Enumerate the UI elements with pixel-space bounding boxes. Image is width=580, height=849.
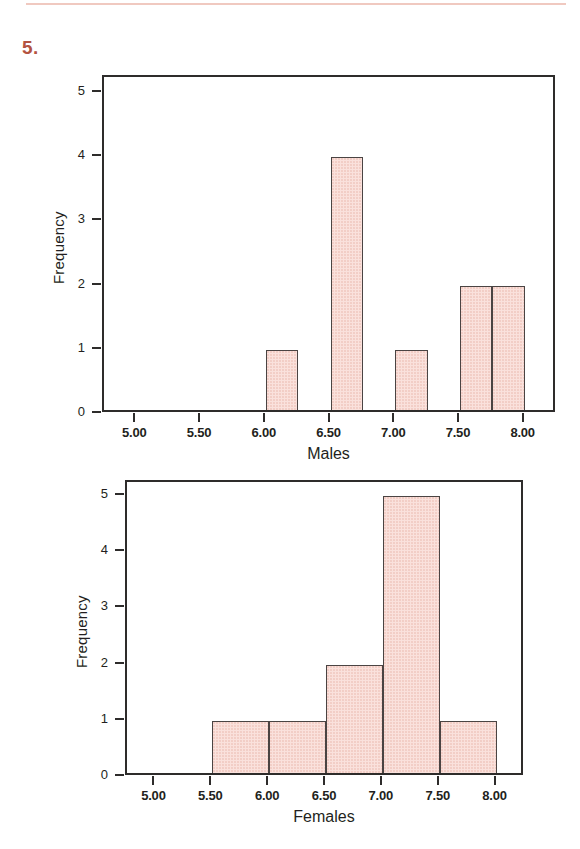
females-x-tick xyxy=(266,776,268,785)
females-x-tick-label: 5.00 xyxy=(126,789,180,802)
males-plot-frame xyxy=(102,75,555,412)
females-x-tick-label: 6.00 xyxy=(240,789,294,802)
females-y-tick-label: 0 xyxy=(82,768,108,781)
females-plot-frame xyxy=(125,480,523,775)
females-x-tick-label: 5.50 xyxy=(183,789,237,802)
males-y-tick-label: 4 xyxy=(59,148,85,161)
histogram-bar xyxy=(440,721,497,773)
males-x-tick xyxy=(392,413,394,422)
females-x-tick xyxy=(437,776,439,785)
females-x-axis-title: Females xyxy=(125,809,523,825)
males-x-tick-label: 5.50 xyxy=(172,426,226,439)
females-y-tick xyxy=(115,774,124,776)
females-y-tick-label: 1 xyxy=(82,712,108,725)
females-x-tick-label: 6.50 xyxy=(297,789,351,802)
histogram-bar xyxy=(331,157,363,410)
males-y-tick-label: 5 xyxy=(59,84,85,97)
males-y-tick-label: 1 xyxy=(59,341,85,354)
males-x-tick xyxy=(522,413,524,422)
males-bars-layer xyxy=(104,77,553,410)
males-y-tick xyxy=(92,90,101,92)
females-y-tick xyxy=(115,605,124,607)
males-x-tick xyxy=(328,413,330,422)
page-top-rule xyxy=(26,3,566,5)
males-x-tick-label: 7.50 xyxy=(431,426,485,439)
males-x-tick xyxy=(198,413,200,422)
females-x-tick xyxy=(380,776,382,785)
histogram-bar xyxy=(383,496,440,773)
histogram-bar xyxy=(269,721,326,773)
females-x-tick-label: 8.00 xyxy=(468,789,522,802)
males-x-axis-title: Males xyxy=(102,446,555,462)
histogram-bar xyxy=(460,286,492,410)
males-x-tick-label: 8.00 xyxy=(496,426,550,439)
males-x-tick-label: 6.00 xyxy=(237,426,291,439)
histogram-bar xyxy=(266,350,298,410)
males-y-tick xyxy=(92,283,101,285)
problem-number: 5. xyxy=(22,37,39,59)
females-y-tick-label: 4 xyxy=(82,543,108,556)
histogram-bar xyxy=(212,721,269,773)
males-y-tick xyxy=(92,218,101,220)
males-y-tick xyxy=(92,411,101,413)
footer-ghost-text xyxy=(40,836,540,844)
males-x-tick xyxy=(263,413,265,422)
females-y-tick-label: 5 xyxy=(82,487,108,500)
females-y-tick xyxy=(115,549,124,551)
females-y-axis-title: Frequency xyxy=(73,595,90,668)
females-y-tick xyxy=(115,718,124,720)
males-y-tick xyxy=(92,347,101,349)
histogram-bar xyxy=(326,665,383,773)
males-y-tick-label: 0 xyxy=(59,405,85,418)
males-x-tick xyxy=(133,413,135,422)
females-y-tick xyxy=(115,493,124,495)
females-x-tick-label: 7.00 xyxy=(354,789,408,802)
histogram-bar xyxy=(492,286,524,410)
males-x-tick-label: 7.00 xyxy=(366,426,420,439)
females-y-tick xyxy=(115,662,124,664)
females-bars-layer xyxy=(127,482,521,773)
males-x-tick-label: 5.00 xyxy=(107,426,161,439)
females-x-tick xyxy=(323,776,325,785)
males-x-tick xyxy=(457,413,459,422)
males-y-axis-title: Frequency xyxy=(50,211,67,284)
males-x-tick-label: 6.50 xyxy=(302,426,356,439)
females-x-tick xyxy=(152,776,154,785)
histogram-bar xyxy=(395,350,427,410)
females-x-tick xyxy=(494,776,496,785)
females-x-tick xyxy=(209,776,211,785)
males-y-tick xyxy=(92,154,101,156)
females-x-tick-label: 7.50 xyxy=(411,789,465,802)
